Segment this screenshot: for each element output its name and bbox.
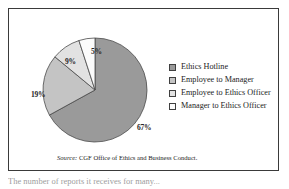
- chart-legend: Ethics HotlineEmployee to ManagerEmploye…: [169, 61, 287, 113]
- legend-item: Manager to Ethics Officer: [169, 100, 287, 113]
- legend-swatch-icon: [169, 90, 176, 97]
- legend-item-label: Employee to Ethics Officer: [181, 89, 271, 97]
- figure-container: 67% 19% 9% 5% Ethics HotlineEmployee to …: [8, 8, 279, 171]
- legend-swatch-icon: [169, 64, 176, 71]
- source-body: CGF Office of Ethics and Business Conduc…: [77, 154, 197, 161]
- legend-item: Employee to Ethics Officer: [169, 87, 287, 100]
- slice-label-employee-to-manager: 19%: [31, 90, 45, 99]
- legend-swatch-icon: [169, 77, 176, 84]
- slice-label-ethics-hotline: 67%: [137, 123, 151, 132]
- legend-item-label: Manager to Ethics Officer: [181, 102, 267, 110]
- source-prefix: Source:: [57, 154, 77, 161]
- legend-item-label: Ethics Hotline: [181, 63, 228, 71]
- figure-caption-partial: The number of reports it receives for ma…: [8, 176, 281, 186]
- legend-swatch-icon: [169, 103, 176, 110]
- legend-item: Ethics Hotline: [169, 61, 287, 74]
- pie-chart: 67% 19% 9% 5%: [29, 31, 154, 146]
- slice-label-employee-to-ethics-officer: 9%: [65, 57, 76, 66]
- legend-item: Employee to Manager: [169, 74, 287, 87]
- legend-item-label: Employee to Manager: [181, 76, 254, 84]
- source-note: Source: CGF Office of Ethics and Busines…: [57, 154, 197, 161]
- slice-label-manager-to-ethics-officer: 5%: [91, 47, 102, 56]
